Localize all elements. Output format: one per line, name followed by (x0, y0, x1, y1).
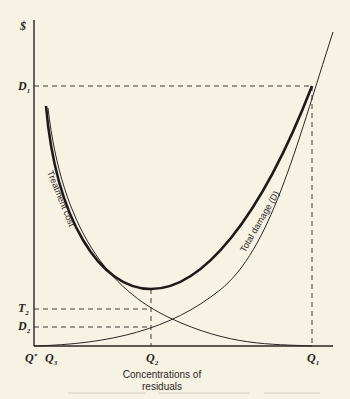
q1-label: Q1 (307, 351, 319, 367)
faded-figure-caption (40, 388, 320, 399)
treatment-cost-curve (48, 108, 312, 346)
d2-label: D2 (17, 319, 31, 335)
t2-label: T2 (18, 301, 29, 317)
x-axis-caption-line1: Concentrations of (123, 369, 202, 380)
total-cost-curve (46, 86, 312, 289)
d1-label: D1 (17, 79, 30, 95)
q3-label: Q3 (45, 351, 58, 367)
total-damage-curve (34, 32, 333, 346)
chart: $ D1 T2 D2 Q* Q3 Q2 Q1 Concentrations of… (0, 0, 350, 399)
q2-label: Q2 (146, 351, 159, 367)
qstar-label: Q* (25, 351, 38, 365)
y-axis-label: $ (19, 19, 26, 33)
